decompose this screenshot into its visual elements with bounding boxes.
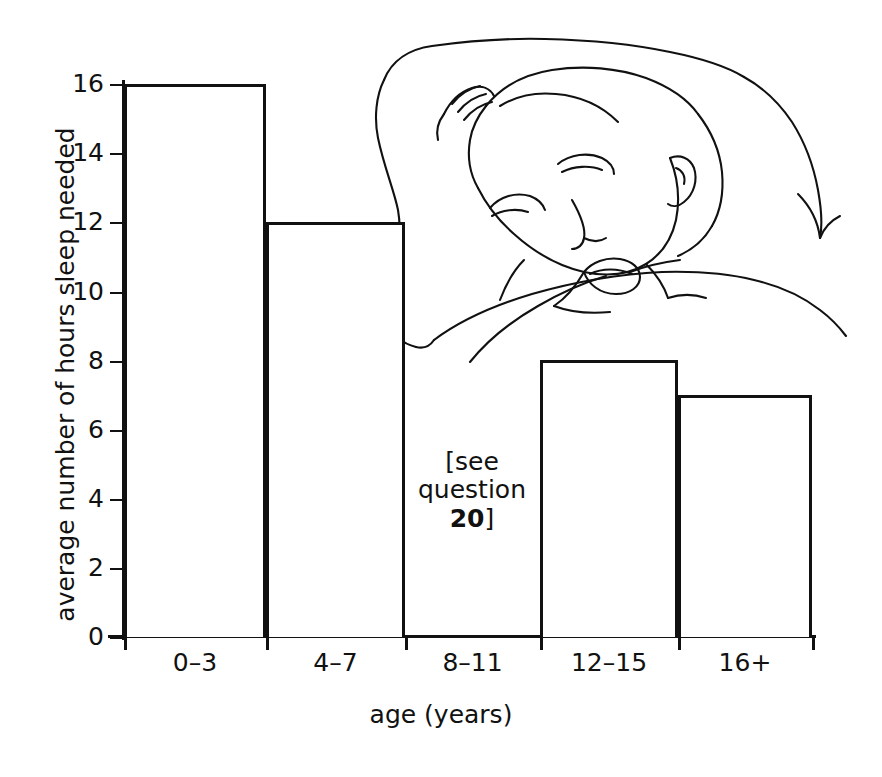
bar-0-3 <box>124 84 266 637</box>
see-question-annotation: [see question 20] <box>404 448 540 533</box>
bar-4-7 <box>266 222 405 637</box>
x-tick-label-4-7: 4–7 <box>266 650 405 675</box>
y-axis-title: average number of hours sleep needed <box>51 95 80 655</box>
x-tick-label-12-15: 12–15 <box>540 650 678 675</box>
annotation-question-number: 20 <box>450 504 485 533</box>
bar-chart-figure: 16 14 12 10 8 6 4 2 0 [see <box>0 0 882 777</box>
plot-area <box>124 84 812 637</box>
y-tick-14 <box>110 153 123 155</box>
y-tick-6 <box>110 430 123 432</box>
y-tick-0 <box>110 637 123 639</box>
annotation-line-2: question <box>404 476 540 504</box>
x-tick-3 <box>540 637 543 650</box>
bar-16-plus <box>678 395 812 637</box>
annotation-line-1: [see <box>404 448 540 476</box>
y-tick-4 <box>110 499 123 501</box>
x-tick-2 <box>405 637 408 650</box>
y-tick-label-16: 16 <box>64 71 104 96</box>
x-tick-4 <box>678 637 681 650</box>
x-tick-1 <box>266 637 269 650</box>
x-tick-right-edge <box>812 637 815 650</box>
annotation-bracket-close: ] <box>485 504 495 533</box>
annotation-line-3: 20] <box>404 505 540 533</box>
y-tick-16 <box>110 84 123 86</box>
x-tick-left-edge <box>124 637 127 650</box>
y-tick-2 <box>110 568 123 570</box>
y-tick-label-16-wrap: 16 <box>58 71 104 97</box>
y-tick-10 <box>110 292 123 294</box>
x-tick-label-16-plus: 16+ <box>678 650 812 675</box>
bar-12-15 <box>540 360 678 637</box>
x-tick-label-0-3: 0–3 <box>124 650 266 675</box>
y-tick-8 <box>110 361 123 363</box>
x-axis-title: age (years) <box>0 700 882 729</box>
x-tick-label-8-11: 8–11 <box>405 650 540 675</box>
y-tick-12 <box>110 222 123 224</box>
